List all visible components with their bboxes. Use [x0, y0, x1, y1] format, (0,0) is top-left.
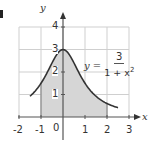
equation-lhs: y = — [84, 60, 101, 71]
x-tick-label: -2 — [13, 125, 23, 135]
x-tick-label: 0 — [53, 123, 59, 133]
y-axis-label: y — [40, 3, 46, 13]
x-tick-label: -1 — [35, 125, 45, 135]
y-tick-label: 1 — [52, 89, 58, 99]
y-tick-label: 4 — [52, 21, 58, 31]
y-tick-label: 2 — [52, 66, 58, 76]
denominator-exponent: 2 — [130, 66, 134, 74]
x-axis-label: x — [142, 112, 148, 122]
y-tick-label: 3 — [52, 44, 58, 54]
equation-numerator: 3 — [114, 51, 124, 64]
equation-denominator: 1 + x2 — [104, 64, 134, 79]
x-tick-label: 2 — [104, 125, 110, 135]
x-tick-label: 1 — [82, 125, 88, 135]
equation-fraction: 3 1 + x2 — [104, 51, 134, 79]
x-tick-label: 3 — [126, 125, 132, 135]
function-equation: y = 3 1 + x2 — [84, 51, 134, 79]
denominator-base: 1 + x — [104, 67, 130, 78]
